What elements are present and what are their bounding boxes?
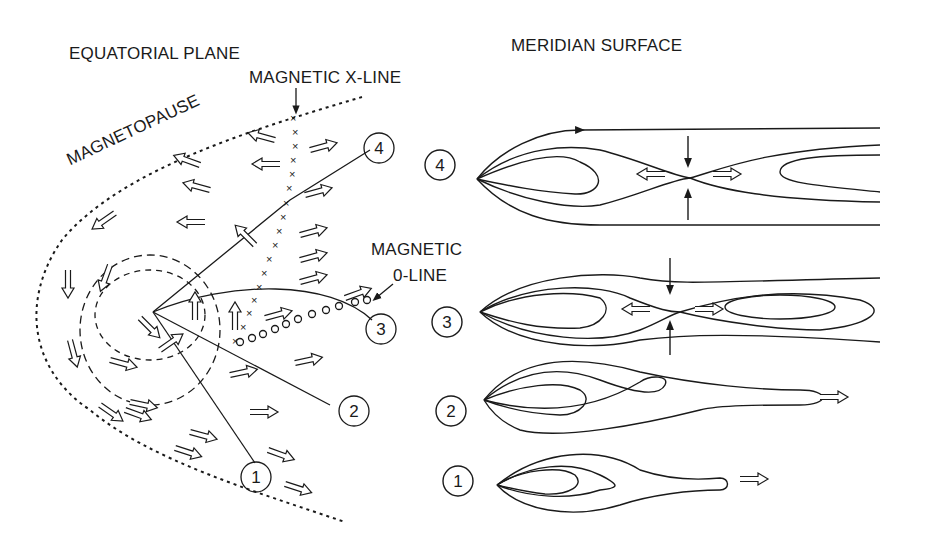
svg-text:×: × [280, 211, 286, 223]
svg-text:×: × [256, 281, 262, 293]
stage-1 [443, 454, 768, 512]
svg-text:×: × [290, 154, 296, 166]
svg-text:3: 3 [442, 313, 451, 332]
magnetopause-boundary [36, 97, 362, 522]
svg-text:×: × [261, 267, 267, 279]
svg-text:×: × [286, 182, 292, 194]
meridian-stage-labels: 4321 [435, 156, 462, 491]
stage-2 [436, 362, 848, 434]
svg-text:×: × [289, 168, 295, 180]
stage-4 [425, 128, 880, 225]
svg-text:2: 2 [349, 402, 358, 421]
o-line-pointer [376, 284, 393, 298]
equatorial-markers [241, 133, 396, 492]
svg-text:×: × [246, 307, 252, 319]
svg-text:×: × [240, 321, 246, 333]
svg-text:×: × [292, 126, 298, 138]
stage-3 [432, 258, 880, 355]
svg-text:4: 4 [435, 156, 444, 175]
svg-text:1: 1 [251, 468, 260, 487]
meridian-surface-diagram [425, 128, 880, 512]
svg-text:4: 4 [374, 139, 383, 158]
svg-text:×: × [290, 112, 296, 124]
line-to-1 [153, 312, 255, 463]
svg-text:2: 2 [446, 402, 455, 421]
diagram-canvas: ×××× ×××× ×××× ××××× [0, 0, 928, 545]
svg-text:×: × [266, 253, 272, 265]
svg-text:3: 3 [376, 320, 385, 339]
svg-text:1: 1 [453, 472, 462, 491]
svg-text:×: × [272, 239, 278, 251]
svg-text:×: × [292, 140, 298, 152]
equatorial-plane-diagram: ×××× ×××× ×××× ××××× [36, 88, 396, 522]
svg-text:×: × [251, 294, 257, 306]
svg-text:×: × [276, 225, 282, 237]
flow-arrows [62, 127, 373, 498]
line-to-3 [153, 289, 372, 320]
